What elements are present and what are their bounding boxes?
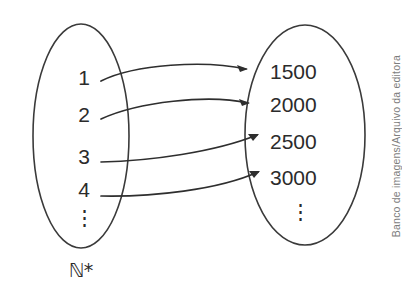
arrow-head-icon	[237, 65, 248, 72]
domain-element-4: 4	[78, 178, 90, 201]
domain-element-2: 2	[78, 103, 90, 126]
diagram-canvas: 1 2 3 4 ⋮ 1500 2000 2500 3000 ⋮	[0, 0, 408, 292]
domain-set-label: ℕ*	[69, 259, 94, 281]
codomain-ellipsis: ⋮	[290, 200, 311, 223]
mapping-arrow-2-to-2000	[101, 99, 250, 119]
domain-ellipsis: ⋮	[74, 206, 95, 229]
image-credit: Banco de imagens/Arquivo da editora	[385, 0, 407, 292]
mapping-arrow-3-to-2500	[101, 134, 259, 162]
codomain-element-2000: 2000	[270, 93, 317, 116]
codomain-element-2500: 2500	[270, 130, 317, 153]
domain-element-1: 1	[78, 66, 90, 89]
codomain-element-1500: 1500	[270, 60, 317, 83]
domain-element-3: 3	[78, 145, 90, 168]
image-credit-text: Banco de imagens/Arquivo da editora	[390, 55, 402, 237]
codomain-element-3000: 3000	[270, 166, 317, 189]
mapping-diagram: 1 2 3 4 ⋮ 1500 2000 2500 3000 ⋮	[0, 0, 408, 292]
